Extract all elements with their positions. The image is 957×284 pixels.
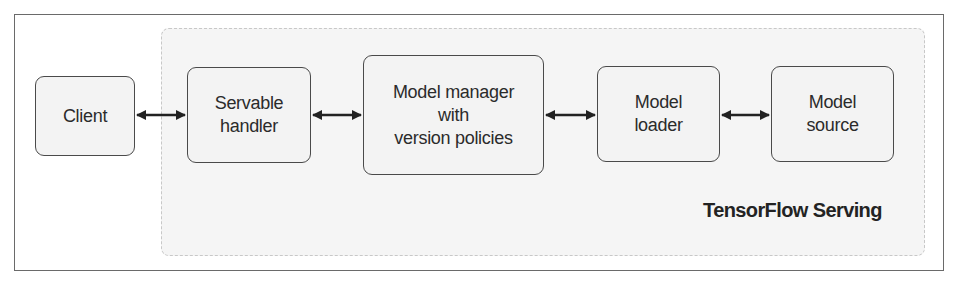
edges-layer [0, 0, 957, 284]
group-label: TensorFlow Serving [703, 199, 882, 222]
